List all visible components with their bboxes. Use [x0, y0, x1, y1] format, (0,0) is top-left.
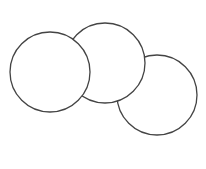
diagram-canvas — [0, 0, 206, 169]
left-circle — [10, 32, 90, 112]
